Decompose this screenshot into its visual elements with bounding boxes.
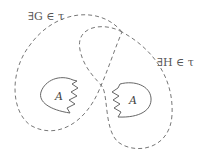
- label-A-left: A: [54, 90, 63, 103]
- diagram-canvas: ∃G ∈ τ ∃H ∈ τ A A: [0, 0, 201, 161]
- label-exists-H: ∃H ∈ τ: [157, 56, 194, 69]
- label-A-right: A: [128, 94, 137, 107]
- set-H-outline: [79, 27, 172, 149]
- label-exists-G: ∃G ∈ τ: [28, 10, 64, 23]
- set-G-outline: [15, 15, 122, 131]
